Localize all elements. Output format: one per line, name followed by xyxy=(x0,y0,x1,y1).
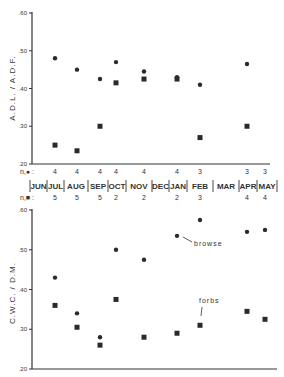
n-square-count: 5 xyxy=(53,194,57,201)
forbs-point xyxy=(142,335,147,340)
month-label-jun: JUN xyxy=(30,182,46,191)
y-tick-label: .50 xyxy=(19,247,28,253)
browse-point xyxy=(245,230,249,234)
browse-point xyxy=(175,234,179,238)
browse-point xyxy=(263,228,267,232)
n-square-count: 5 xyxy=(98,194,102,201)
square-point xyxy=(53,143,58,148)
month-label-nov: NOV xyxy=(130,182,148,191)
forbs-point xyxy=(263,317,268,322)
circle-point xyxy=(142,69,146,73)
n-circle-count: 3 xyxy=(198,168,202,175)
browse-point xyxy=(198,218,202,222)
forbs-point xyxy=(245,309,250,314)
y-tick-label: .60 xyxy=(19,10,28,16)
square-point xyxy=(75,148,80,153)
month-label-mar: MAR xyxy=(217,182,235,191)
month-label-dec: DEC xyxy=(152,182,169,191)
n-square-count: 4 xyxy=(245,194,249,201)
n-square-count: 2 xyxy=(142,194,146,201)
square-point xyxy=(114,80,119,85)
y-tick-label: .20 xyxy=(19,161,28,167)
n-square-label: n,■ : xyxy=(20,194,34,201)
month-label-may: MAY xyxy=(258,182,276,191)
browse-point xyxy=(53,275,57,279)
browse-annotation: browse xyxy=(194,240,223,247)
n-square-count: 5 xyxy=(75,194,79,201)
forbs-point xyxy=(198,323,203,328)
browse-leader-line xyxy=(183,237,192,242)
top-chart: .60.50.40.30.20 A.D.L. / A.D.F. xyxy=(8,10,270,167)
browse-point xyxy=(98,335,102,339)
square-point xyxy=(175,77,180,82)
square-point xyxy=(98,124,103,129)
y-tick-label: .40 xyxy=(19,287,28,293)
month-label-sep: SEP xyxy=(90,182,107,191)
bottom-y-axis-label: C.W.C. / D.M. xyxy=(8,262,17,324)
top-y-axis-label: A.D.L. / A.D.F. xyxy=(8,55,17,120)
bottom-chart: .60.50.40.30.20 C.W.C. / D.M. browse for… xyxy=(8,207,277,372)
n-square-count: 2 xyxy=(114,194,118,201)
y-tick-label: .60 xyxy=(19,207,28,213)
n-circle-count: 3 xyxy=(245,168,249,175)
n-circle-count: 3 xyxy=(263,168,267,175)
y-tick-label: .30 xyxy=(19,326,28,332)
circle-point xyxy=(198,83,202,87)
forbs-point xyxy=(53,303,58,308)
month-label-oct: OCT xyxy=(109,182,126,191)
n-circle-count: 4 xyxy=(142,168,146,175)
n-circle-count: 4 xyxy=(175,168,179,175)
month-label-jul: JUL xyxy=(48,182,63,191)
n-square-count: 4 xyxy=(263,194,267,201)
square-point xyxy=(245,124,250,129)
circle-point xyxy=(75,67,79,71)
month-label-aug: AUG xyxy=(67,182,85,191)
square-point xyxy=(142,77,147,82)
n-circle-count: 4 xyxy=(98,168,102,175)
browse-point xyxy=(75,311,79,315)
y-tick-label: .40 xyxy=(19,86,28,92)
y-tick-label: .50 xyxy=(19,48,28,54)
chart-figure: .60.50.40.30.20 A.D.L. / A.D.F. n,● : 44… xyxy=(0,0,284,377)
n-circle-count: 4 xyxy=(114,168,118,175)
n-square-count: 3 xyxy=(198,194,202,201)
n-circle-label: n,● : xyxy=(20,168,34,175)
month-label-apr: APR xyxy=(240,182,257,191)
circle-point xyxy=(245,62,249,66)
forbs-point xyxy=(98,343,103,348)
forbs-point xyxy=(75,325,80,330)
forbs-leader-line xyxy=(201,307,202,316)
y-tick-label: .20 xyxy=(19,366,28,372)
forbs-annotation: forbs xyxy=(199,297,220,304)
browse-point xyxy=(142,257,146,261)
month-label-feb: FEB xyxy=(192,182,208,191)
month-strip: n,● : 444444333 JUNJULAUGSEPOCTNOVDECJAN… xyxy=(20,168,277,201)
browse-point xyxy=(114,248,118,252)
circle-point xyxy=(53,56,57,60)
circle-point xyxy=(114,60,118,64)
n-circle-count: 4 xyxy=(53,168,57,175)
circle-point xyxy=(98,77,102,81)
n-square-count: 2 xyxy=(175,194,179,201)
month-label-jan: JAN xyxy=(170,182,186,191)
forbs-point xyxy=(175,331,180,336)
n-circle-count: 4 xyxy=(75,168,79,175)
y-tick-label: .30 xyxy=(19,123,28,129)
forbs-point xyxy=(114,297,119,302)
square-point xyxy=(198,135,203,140)
